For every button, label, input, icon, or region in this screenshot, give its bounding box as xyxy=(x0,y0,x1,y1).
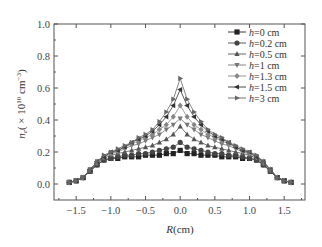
y-tick-label: 0.2 xyxy=(37,147,50,158)
data-point-marker xyxy=(212,151,217,156)
data-point-marker xyxy=(191,136,196,141)
legend-item: h=0 cm xyxy=(228,27,280,38)
x-label-unit: (cm) xyxy=(173,223,194,236)
legend-item: h=1.5 cm xyxy=(228,82,287,93)
chart: −1.5−1.0−0.50.00.51.01.5 0.00.20.40.60.8… xyxy=(0,0,322,247)
data-point-marker xyxy=(171,145,176,150)
data-point-marker xyxy=(198,127,203,133)
x-tick-label: −0.5 xyxy=(136,205,155,216)
data-point-marker xyxy=(219,151,224,156)
data-point-marker xyxy=(157,127,162,133)
data-point-marker xyxy=(178,123,183,128)
x-tick-label: 1.5 xyxy=(278,205,291,216)
data-point-marker xyxy=(205,149,210,154)
data-point-marker xyxy=(150,149,155,154)
data-point-marker xyxy=(191,114,196,119)
legend-label: h=0.2 cm xyxy=(249,38,287,49)
legend-item: h=0.2 cm xyxy=(228,38,287,49)
legend-item: h=1 cm xyxy=(228,60,280,71)
y-label-factor: ( × 10 xyxy=(15,103,28,130)
legend-label: h=1.3 cm xyxy=(249,71,287,82)
data-point-marker xyxy=(178,116,183,121)
y-tick-label: 1.0 xyxy=(37,19,50,30)
data-point-marker xyxy=(185,145,190,150)
data-point-marker xyxy=(185,97,190,102)
x-tick-label: 0.5 xyxy=(208,205,221,216)
legend-marker-icon xyxy=(234,40,239,45)
y-axis-label: ne( × 1010 cm−3) xyxy=(15,69,29,139)
y-tick-label: 0.0 xyxy=(37,179,50,190)
data-point-marker xyxy=(185,123,190,128)
x-axis-label: R(cm) xyxy=(165,223,194,236)
legend-label: h=0 cm xyxy=(249,27,280,38)
data-point-marker xyxy=(164,128,169,133)
data-point-marker xyxy=(178,148,183,153)
legend-label: h=1.5 cm xyxy=(249,82,287,93)
y-tick-label: 0.6 xyxy=(37,83,50,94)
legend-marker-icon xyxy=(234,84,239,89)
series-h-0-cm xyxy=(67,148,294,185)
data-point-marker xyxy=(164,151,169,156)
y-tick-label: 0.4 xyxy=(37,115,51,126)
series-h-0-5-cm xyxy=(67,123,294,184)
data-point-marker xyxy=(164,136,169,141)
legend-label: h=0.5 cm xyxy=(249,49,287,60)
legend-marker-icon xyxy=(234,73,239,79)
data-point-marker xyxy=(185,151,190,156)
data-point-marker xyxy=(129,153,134,158)
data-point-marker xyxy=(178,140,183,145)
legend-item: h=3 cm xyxy=(228,93,280,104)
legend-marker-icon xyxy=(234,63,239,68)
legend-marker-icon xyxy=(235,95,240,100)
y-label-unit: cm xyxy=(15,80,27,97)
data-point-marker xyxy=(198,153,203,158)
legend-label: h=3 cm xyxy=(249,93,280,104)
series-h-0-2-cm xyxy=(67,140,294,185)
data-point-marker xyxy=(136,151,141,156)
data-point-marker xyxy=(157,148,162,153)
x-tick-label: 1.0 xyxy=(243,205,256,216)
legend-item: h=1.3 cm xyxy=(228,71,287,82)
data-point-marker xyxy=(226,153,231,158)
y-label-close: ) xyxy=(15,69,28,73)
data-point-marker xyxy=(143,151,148,156)
data-point-marker xyxy=(171,123,176,128)
data-point-marker xyxy=(191,151,196,156)
data-point-marker xyxy=(191,128,196,133)
data-point-marker xyxy=(171,151,176,156)
y-tick-label: 0.8 xyxy=(37,51,50,62)
data-point-marker xyxy=(192,109,197,114)
data-point-marker xyxy=(157,153,162,158)
legend: h=0 cmh=0.2 cmh=0.5 cmh=1 cmh=1.3 cmh=1.… xyxy=(228,27,287,104)
data-point-marker xyxy=(164,146,169,151)
x-tick-label: −1.0 xyxy=(101,205,120,216)
legend-item: h=0.5 cm xyxy=(228,49,287,60)
legend-marker-icon xyxy=(234,51,239,56)
legend-marker-icon xyxy=(234,29,239,34)
x-tick-label: −1.5 xyxy=(67,205,86,216)
data-point-marker xyxy=(191,146,196,151)
x-tick-label: 0.0 xyxy=(174,205,187,216)
legend-label: h=1 cm xyxy=(249,60,280,71)
data-point-marker xyxy=(178,103,183,109)
data-point-marker xyxy=(198,148,203,153)
